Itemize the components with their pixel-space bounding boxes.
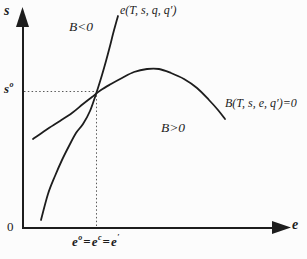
e-tick-term2: e bbox=[92, 234, 98, 249]
e-naught-tick-label: eo=ec=e′ bbox=[72, 235, 120, 248]
e-tick-equals1: = bbox=[83, 234, 90, 249]
x-axis-arrowhead-icon bbox=[272, 221, 291, 234]
s-tick-base: s bbox=[4, 81, 9, 96]
e-tick-sup3: ′ bbox=[117, 233, 119, 242]
e-curve-label: e(T, s, q, q′) bbox=[120, 4, 176, 16]
s-naught-tick-label: so bbox=[4, 82, 14, 95]
plot-canvas bbox=[0, 0, 307, 259]
b-curve-label: B(T, s, e, q′)=0 bbox=[225, 97, 297, 109]
x-axis-label: e bbox=[292, 218, 298, 232]
region-b-negative-label: B<0 bbox=[69, 20, 93, 34]
y-axis-arrowhead-icon bbox=[16, 7, 29, 27]
e-tick-sup2: c bbox=[98, 233, 102, 242]
region-b-positive-label: B>0 bbox=[161, 121, 185, 135]
b-curve bbox=[33, 69, 225, 139]
s-tick-superscript: o bbox=[10, 80, 14, 89]
e-tick-term3: e bbox=[111, 234, 117, 249]
origin-label: 0 bbox=[7, 220, 14, 233]
e-tick-term1: e bbox=[72, 234, 78, 249]
figure: s e 0 so eo=ec=e′ B<0 B>0 e(T, s, q, q′)… bbox=[0, 0, 307, 259]
e-curve bbox=[41, 16, 118, 220]
y-axis-label: s bbox=[4, 4, 9, 18]
e-tick-equals2: = bbox=[103, 234, 110, 249]
e-tick-sup1: o bbox=[78, 233, 82, 242]
